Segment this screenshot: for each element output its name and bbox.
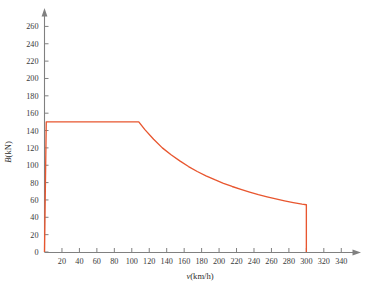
y-tick-label: 40: [30, 213, 38, 222]
y-tick-label: 240: [26, 40, 38, 49]
x-tick-label: 160: [178, 257, 190, 266]
x-tick-label: 100: [126, 257, 138, 266]
y-axis-title-unit: (kN): [3, 141, 13, 157]
svg-text:B(kN): B(kN): [3, 141, 13, 163]
x-axis-title-unit: (km/h): [190, 271, 214, 281]
y-tick-label: 160: [26, 109, 38, 118]
y-tick-label: 120: [26, 144, 38, 153]
y-tick-label: 20: [30, 231, 38, 240]
x-tick-label: 20: [58, 257, 66, 266]
x-axis-arrow-icon: [353, 250, 362, 256]
data-curve: [45, 122, 307, 252]
x-tick-label: 60: [93, 257, 101, 266]
x-axis: [45, 250, 362, 256]
svg-text:v(km/h): v(km/h): [186, 271, 213, 281]
chart-figure: 020406080100120140160180200220240260 204…: [0, 0, 368, 295]
x-tick-label: 40: [75, 257, 83, 266]
y-tick-label: 60: [30, 196, 38, 205]
y-axis-arrow-icon: [42, 8, 48, 17]
chart-plot-area: 020406080100120140160180200220240260 204…: [0, 0, 368, 295]
x-tick-label: 320: [318, 257, 330, 266]
y-tick-label: 0: [34, 248, 38, 257]
x-tick-label: 80: [110, 257, 118, 266]
x-tick-label: 200: [213, 257, 225, 266]
x-tick-label: 140: [161, 257, 173, 266]
x-tick-label: 260: [265, 257, 277, 266]
y-tick-label: 80: [30, 179, 38, 188]
x-tick-label: 180: [195, 257, 207, 266]
y-tick-label: 100: [26, 161, 38, 170]
y-axis-title: B(kN): [3, 141, 13, 163]
x-axis-ticks: 2040608010012014016018020022024026028030…: [58, 248, 348, 266]
x-axis-title: v(km/h): [186, 271, 213, 281]
y-tick-label: 180: [26, 92, 38, 101]
x-tick-label: 220: [230, 257, 242, 266]
x-tick-label: 120: [143, 257, 155, 266]
x-tick-label: 300: [300, 257, 312, 266]
x-tick-label: 280: [283, 257, 295, 266]
x-tick-label: 340: [335, 257, 347, 266]
y-tick-label: 220: [26, 57, 38, 66]
y-tick-label: 200: [26, 74, 38, 83]
x-tick-label: 240: [248, 257, 260, 266]
y-tick-label: 140: [26, 127, 38, 136]
data-series-group: [45, 122, 307, 252]
y-tick-label: 260: [26, 22, 38, 31]
